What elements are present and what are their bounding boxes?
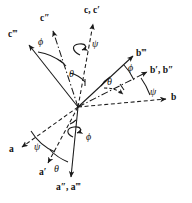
axis-a: [22, 107, 78, 147]
angle-psi-a-plane: ψ: [34, 142, 40, 152]
angle-phi-b-plane: ϕ: [128, 63, 133, 73]
axis-b-triple-prime: [78, 56, 133, 107]
label-a-prime: a′: [39, 168, 46, 178]
label-c-cprime: c, c′: [84, 6, 100, 16]
label-c-triple-prime: c‴: [8, 30, 17, 40]
label-c-double-prime: c″: [40, 14, 49, 24]
angle-theta-c-plane: θ: [69, 69, 74, 79]
theta-arc-a: [50, 150, 68, 162]
psi-arc-b: [141, 78, 150, 95]
angle-phi-a-plane: ϕ: [86, 132, 91, 142]
label-a-double-prime-a-triple-prime: a″, a‴: [56, 183, 81, 193]
angle-theta-b-plane: θ: [107, 77, 112, 87]
angle-psi-c-spin: ψ: [92, 39, 98, 49]
phi-tick-c: [60, 60, 66, 66]
psi-spin-coil: [73, 44, 85, 55]
angle-theta-a-plane: θ: [54, 164, 59, 174]
axis-a-triple-prime: [71, 107, 78, 177]
label-b-prime-b-double-prime: b′, b″: [150, 66, 173, 76]
label-b: b: [171, 93, 176, 103]
axis-b-double-prime: [78, 72, 147, 107]
euler-angle-diagram: c, c′ c″ c‴ b‴ b′, b″ b a a′ a″, a‴ ϕ ψ …: [0, 0, 192, 203]
label-a: a: [9, 145, 14, 155]
phi-spin-coil-a: [68, 127, 81, 137]
axis-c-double-prime: [53, 31, 78, 107]
angle-psi-b-plane: ψ: [150, 87, 156, 97]
label-b-triple-prime: b‴: [136, 49, 147, 59]
angle-phi-c-plane: ϕ: [38, 37, 43, 47]
diagram-canvas: [0, 0, 192, 203]
